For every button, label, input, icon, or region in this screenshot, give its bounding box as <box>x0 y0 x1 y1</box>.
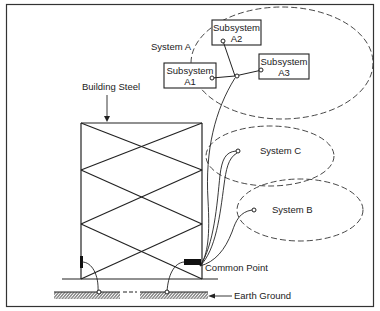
common-point-bar <box>184 259 201 265</box>
system-b-label: System B <box>272 204 313 215</box>
earth-ground <box>54 290 208 299</box>
svg-text:A2: A2 <box>231 33 243 44</box>
building-steel-label: Building Steel <box>82 81 140 92</box>
common-point-label: Common Point <box>205 262 268 273</box>
ground-wires <box>200 78 252 266</box>
svg-text:A1: A1 <box>184 76 196 87</box>
system-a-label: System A <box>151 41 192 52</box>
svg-text:Subsystem: Subsystem <box>167 65 214 76</box>
subsystem-a3: Subsystem A3 <box>259 54 309 79</box>
svg-text:A3: A3 <box>278 67 290 78</box>
grounding-diagram: System A Subsystem A1 Subsystem A2 Subsy… <box>0 0 380 311</box>
svg-text:Subsystem: Subsystem <box>261 56 308 67</box>
building-steel-arrowhead <box>104 116 110 122</box>
system-c-label: System C <box>260 145 301 156</box>
building-steel-frame <box>81 123 202 279</box>
earth-ground-label: Earth Ground <box>234 290 291 301</box>
system-b-terminal <box>252 208 256 212</box>
subsystem-a2: Subsystem A2 <box>212 20 261 45</box>
subsystem-a1: Subsystem A1 <box>164 63 216 88</box>
earth-ground-arrowhead <box>208 294 215 299</box>
svg-text:Subsystem: Subsystem <box>213 22 260 33</box>
system-c-terminal <box>236 149 240 153</box>
